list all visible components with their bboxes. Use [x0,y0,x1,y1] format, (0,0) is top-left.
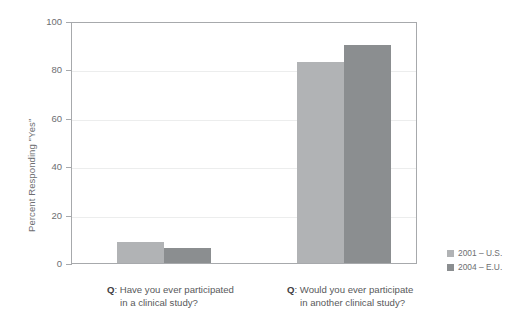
y-tick-label-wrap: 20 [0,211,62,221]
y-tick-label-wrap: 0 [0,259,62,269]
plot-area [72,22,417,264]
category-label-0: Q: Have you ever participated in a clini… [107,283,234,309]
y-tick-label-wrap: 60 [0,114,62,124]
category-label-1: Q: Would you ever participate in another… [287,283,413,309]
y-tick-label: 60 [22,114,62,124]
y-tick-mark [66,70,71,71]
y-tick-mark [66,22,71,23]
y-tick-label: 100 [22,17,62,27]
legend-swatch-icon-1 [447,264,454,271]
y-tick-label: 0 [22,259,62,269]
legend-item-1: 2004 – E.U. [447,261,502,273]
y-tick-label-wrap: 80 [0,65,62,75]
y-tick-mark [66,167,71,168]
legend-item-0: 2001 – U.S. [447,247,502,259]
y-tick-mark [66,264,71,265]
y-tick-label: 80 [22,65,62,75]
y-tick-mark [66,216,71,217]
y-tick-label-wrap: 40 [0,162,62,172]
y-tick-mark [66,119,71,120]
y-tick-label: 20 [22,211,62,221]
legend: 2001 – U.S. 2004 – E.U. [447,247,502,275]
category-label-1-line1: Would you ever participate [300,284,413,295]
legend-label-0: 2001 – U.S. [458,248,502,258]
category-label-1-line2: in another clinical study? [287,296,413,309]
bar [117,242,164,263]
y-tick-label-wrap: 100 [0,17,62,27]
category-label-0-line2: in a clinical study? [107,296,234,309]
category-label-0-line1: Have you ever participated [120,284,234,295]
bar [344,45,391,263]
y-tick-label: 40 [22,162,62,172]
question-prefix-sep-0: : [114,284,117,295]
bar [297,62,344,263]
bar [164,248,211,263]
question-prefix-sep-1: : [294,284,297,295]
bar-chart: Percent Responding "Yes" 020406080100 Q:… [0,0,522,336]
legend-swatch-icon-0 [447,250,454,257]
legend-label-1: 2004 – E.U. [458,262,502,272]
